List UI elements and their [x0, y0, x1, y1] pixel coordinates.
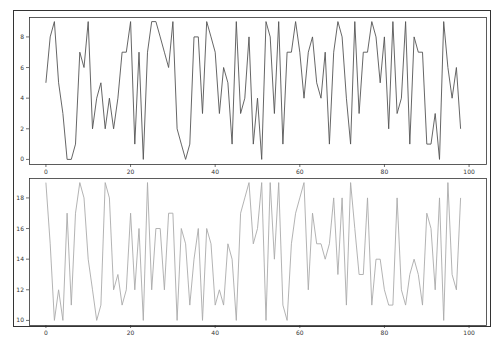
y-tick-label: 0	[20, 155, 24, 162]
x-tick-label: 0	[44, 168, 48, 175]
data-line	[46, 22, 461, 160]
y-tick-label: 4	[20, 94, 24, 101]
x-tick-label: 20	[127, 329, 135, 336]
axes-frame	[30, 18, 487, 165]
y-tick-label: 2	[20, 125, 24, 132]
x-tick-label: 20	[127, 168, 135, 175]
x-tick-label: 40	[211, 168, 219, 175]
x-tick-label: 80	[381, 168, 389, 175]
x-tick-label: 80	[381, 329, 389, 336]
y-tick-label: 18	[16, 194, 24, 201]
y-tick-label: 12	[16, 286, 24, 293]
x-tick-label: 100	[463, 168, 475, 175]
x-tick-label: 0	[44, 329, 48, 336]
y-tick-label: 10	[16, 316, 24, 323]
x-tick-label: 40	[211, 329, 219, 336]
x-tick-label: 60	[296, 329, 304, 336]
y-tick-label: 6	[20, 64, 24, 71]
x-tick-label: 100	[463, 329, 475, 336]
x-tick-label: 60	[296, 168, 304, 175]
data-line	[46, 183, 461, 321]
bottom-line-chart: 0204060801001012141618	[16, 179, 486, 337]
figure-canvas: 02040608010002468 0204060801001012141618	[0, 0, 502, 354]
y-tick-label: 16	[16, 225, 24, 232]
axes-frame	[30, 179, 487, 326]
top-line-chart: 02040608010002468	[20, 18, 486, 176]
y-tick-label: 14	[16, 255, 24, 262]
y-tick-label: 8	[20, 33, 24, 40]
